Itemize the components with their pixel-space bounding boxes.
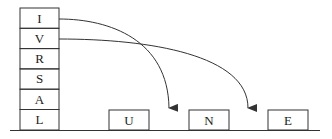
stack: I V R S A L — [20, 8, 59, 130]
ground-boxes: U N E — [109, 110, 308, 130]
stack-letter: A — [35, 92, 45, 107]
letter-stack-diagram: I V R S A L U N E — [0, 0, 332, 139]
stack-letter: R — [35, 51, 44, 66]
ground-letter: U — [124, 113, 134, 128]
stack-letter: S — [36, 71, 43, 86]
ground-letter: N — [204, 113, 214, 128]
stack-letter: V — [35, 31, 45, 46]
stack-letter: L — [36, 112, 44, 127]
arrow-from-I — [59, 19, 169, 108]
arrow-from-V — [59, 39, 248, 108]
ground-letter: E — [284, 113, 292, 128]
stack-letter: I — [37, 11, 41, 26]
